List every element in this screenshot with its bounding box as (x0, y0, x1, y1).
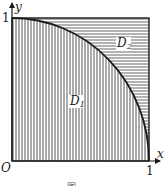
x-tick-1: 1 (146, 164, 154, 178)
x-axis-label: x (157, 147, 164, 161)
origin-label: O (1, 161, 11, 175)
y-tick-1: 1 (2, 11, 10, 25)
y-axis-label: y (14, 0, 22, 14)
figure-caption: 图 (67, 182, 76, 186)
unit-square-diagram: y x O 1 1 D1 D2 图 (0, 0, 165, 186)
